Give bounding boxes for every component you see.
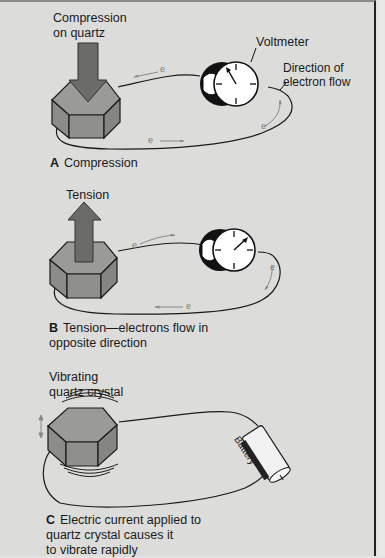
caption-b: BTension—electrons flow in opposite dire… bbox=[49, 321, 208, 351]
electron-symbol: e bbox=[186, 301, 191, 311]
panel-letter-c: C bbox=[46, 513, 55, 527]
electron-symbol: e bbox=[270, 262, 275, 272]
panel-letter-b: B bbox=[49, 321, 58, 335]
electron-symbol: e bbox=[160, 64, 165, 74]
electron-flow-label-line1: Direction of bbox=[283, 61, 350, 75]
panel-a-circuit bbox=[52, 43, 292, 149]
compression-label-line1: Compression bbox=[53, 11, 127, 26]
caption-c-line3: to vibrate rapidly bbox=[46, 543, 201, 558]
caption-b-line1: Tension—electrons flow in bbox=[63, 321, 208, 335]
caption-a: ACompression bbox=[50, 156, 138, 171]
compression-label-line2: on quartz bbox=[53, 26, 127, 41]
vibration-arrow-icon bbox=[39, 415, 43, 438]
vibrating-crystal-label-line2: quartz crystal bbox=[49, 385, 123, 400]
caption-c: CElectric current applied to quartz crys… bbox=[46, 513, 201, 558]
compression-label: Compression on quartz bbox=[53, 11, 127, 41]
vibrating-crystal-label: Vibrating quartz crystal bbox=[49, 370, 123, 400]
panel-c-circuit bbox=[39, 390, 293, 507]
caption-a-text: Compression bbox=[64, 156, 138, 170]
electron-flow-label-line2: electron flow bbox=[283, 75, 350, 89]
electron-symbol: e bbox=[261, 121, 266, 131]
tension-label: Tension bbox=[66, 188, 109, 203]
voltmeter-label: Voltmeter bbox=[256, 35, 309, 50]
caption-b-line2: opposite direction bbox=[49, 336, 208, 351]
caption-c-line2: quartz crystal causes it bbox=[46, 528, 201, 543]
caption-c-line1: Electric current applied to bbox=[60, 513, 201, 527]
vibrating-crystal-label-line1: Vibrating bbox=[49, 370, 123, 385]
electron-symbol: e bbox=[148, 135, 153, 145]
voltmeter-b bbox=[199, 229, 255, 271]
panel-b-circuit bbox=[50, 202, 280, 314]
voltmeter-a bbox=[200, 62, 258, 106]
electron-flow-label: Direction of electron flow bbox=[283, 61, 350, 89]
electron-symbol: e bbox=[132, 240, 137, 250]
panel-letter-a: A bbox=[50, 156, 59, 170]
